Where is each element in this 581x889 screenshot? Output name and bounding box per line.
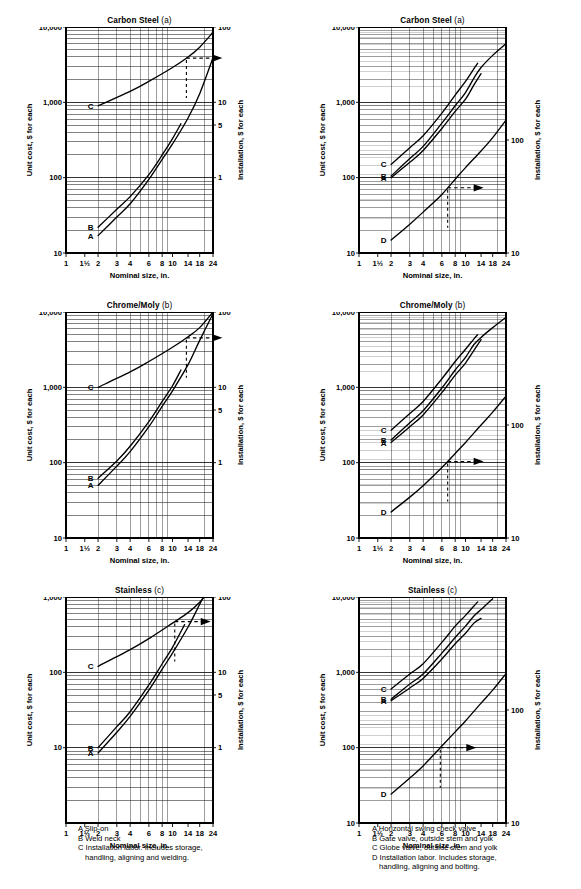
x-tick-label: 14 — [184, 544, 193, 553]
y-left-tick-label: 100 — [342, 458, 355, 467]
y-left-tick-label: 100 — [49, 668, 62, 677]
legend-line: D Installation labor. Includes storage, — [372, 853, 497, 863]
y-left-tick-label: 1,000 — [43, 98, 62, 107]
curve-label-C: C — [381, 160, 387, 169]
chart-title: Chrome/Moly (b) — [359, 301, 506, 310]
grid-lines — [66, 597, 213, 823]
legend-line-continuation: handling, aligning and bolting. — [372, 862, 497, 872]
curve-label-C: C — [381, 426, 387, 435]
y-left-tick-label: 10 — [54, 534, 62, 543]
legend-flanges: A Slip-on B Weld neck C Installation lab… — [78, 824, 203, 862]
y-left-tick-label: 10 — [347, 534, 355, 543]
x-tick-label: 1 — [357, 259, 362, 268]
y-right-axis-title: Installation, $ for each — [236, 100, 245, 181]
y-left-tick-label: 10 — [54, 743, 62, 752]
chart-title-sub: (c) — [445, 586, 457, 595]
y-right-tick-label: 100 — [218, 27, 231, 32]
x-tick-label: 8 — [453, 259, 457, 268]
x-tick-label: 6 — [147, 259, 151, 268]
chart-plot-valves-carbon-steel: 11½2346810141824Nominal size, in.10,0001… — [313, 27, 560, 299]
y-right-tick-label: 10 — [511, 819, 519, 828]
read-right-axis-annotation — [440, 744, 476, 788]
x-tick-label: 14 — [477, 544, 486, 553]
chart-title: Carbon Steel (a) — [359, 16, 506, 25]
chart-plot-flanges-chrome-moly: 11½2346810141824Nominal size, in.10,0001… — [20, 312, 267, 584]
data-curves — [98, 32, 213, 235]
annotation-arrowhead — [212, 55, 222, 62]
x-tick-label: 10 — [168, 259, 176, 268]
chart-title-main: Stainless — [408, 586, 445, 595]
x-axis-title: Nominal size, in. — [403, 556, 463, 565]
x-tick-label: 18 — [195, 259, 203, 268]
y-right-axis-title: Installation, $ for each — [533, 100, 542, 181]
y-right-tick-label: 100 — [511, 706, 524, 715]
y-left-tick-label: 100 — [342, 743, 355, 752]
x-tick-label: 18 — [488, 259, 496, 268]
read-right-axis-annotation — [448, 184, 484, 228]
y-left-tick-label: 10,000 — [332, 312, 355, 317]
curve-D — [391, 120, 506, 240]
x-tick-label: 24 — [209, 544, 218, 553]
annotation-arrowhead — [201, 618, 211, 625]
x-tick-label: 14 — [184, 259, 193, 268]
chart-plot-flanges-carbon-steel: 11½2346810141824Nominal size, in.10,0001… — [20, 27, 267, 299]
x-tick-label: 1 — [64, 544, 69, 553]
x-tick-label: 1 — [64, 829, 69, 838]
chart-title-main: Carbon Steel — [107, 16, 159, 25]
x-tick-label: 3 — [115, 544, 119, 553]
x-tick-label: 8 — [160, 259, 164, 268]
data-curves — [391, 599, 506, 794]
y-left-tick-label: 10 — [347, 249, 355, 258]
curve-B — [391, 317, 506, 440]
read-right-axis-annotation — [448, 458, 484, 502]
y-right-tick-label: 5 — [218, 406, 223, 415]
x-tick-label: 1 — [64, 259, 69, 268]
chart-title-main: Chrome/Moly — [400, 301, 453, 310]
legend-line: B Weld neck — [78, 834, 203, 844]
y-right-tick-label: 1 — [218, 458, 223, 467]
y-left-tick-label: 10 — [54, 249, 62, 258]
y-left-axis-title: Unit cost, $ for each — [25, 388, 34, 461]
x-tick-label: 10 — [461, 259, 469, 268]
y-left-tick-label: 1,000 — [43, 597, 62, 602]
x-tick-label: 4 — [421, 544, 426, 553]
curve-label-C: C — [88, 662, 94, 671]
x-axis-title: Nominal size, in. — [403, 271, 463, 280]
y-left-axis-title: Unit cost, $ for each — [318, 673, 327, 746]
y-left-tick-label: 10,000 — [39, 312, 62, 317]
curve-C — [98, 597, 213, 666]
x-tick-label: 24 — [209, 829, 218, 838]
chart-plot-valves-chrome-moly: 11½2346810141824Nominal size, in.10,0001… — [313, 312, 560, 584]
grid-lines — [359, 312, 506, 538]
legend-line: A Horizontal swing check valve — [372, 824, 497, 834]
curve-label-B: B — [88, 744, 94, 753]
curve-label-C: C — [88, 102, 94, 111]
legend-line: A Slip-on — [78, 824, 203, 834]
chart-title-sub: (a) — [452, 16, 465, 25]
x-tick-label: 3 — [115, 259, 119, 268]
y-right-tick-label: 5 — [218, 121, 223, 130]
curve-label-B: B — [88, 474, 94, 483]
legend-line-continuation: handling, aligning and welding. — [78, 853, 203, 863]
curve-label-A: A — [88, 232, 94, 241]
x-tick-label: 24 — [502, 544, 511, 553]
chart-title-main: Stainless — [115, 586, 152, 595]
x-tick-label: 14 — [477, 259, 486, 268]
y-right-tick-label: 100 — [218, 312, 231, 317]
x-tick-label: 4 — [421, 259, 426, 268]
x-tick-label: 24 — [209, 259, 218, 268]
chart-title-main: Carbon Steel — [400, 16, 452, 25]
y-left-tick-label: 1,000 — [336, 98, 355, 107]
curve-A — [98, 314, 213, 486]
y-right-tick-label: 1 — [218, 173, 223, 182]
x-tick-label: 6 — [440, 544, 444, 553]
x-tick-label: 6 — [440, 259, 444, 268]
y-right-axis-title: Installation, $ for each — [236, 670, 245, 751]
y-left-tick-label: 10,000 — [332, 27, 355, 32]
curve-D — [391, 674, 506, 795]
x-tick-label: 1½ — [372, 259, 383, 268]
chart-title-sub: (b) — [160, 301, 173, 310]
y-right-axis-title: Installation, $ for each — [533, 670, 542, 751]
legend-line: B Gate valve, outside stem and yolk — [372, 834, 497, 844]
x-tick-label: 2 — [96, 259, 100, 268]
